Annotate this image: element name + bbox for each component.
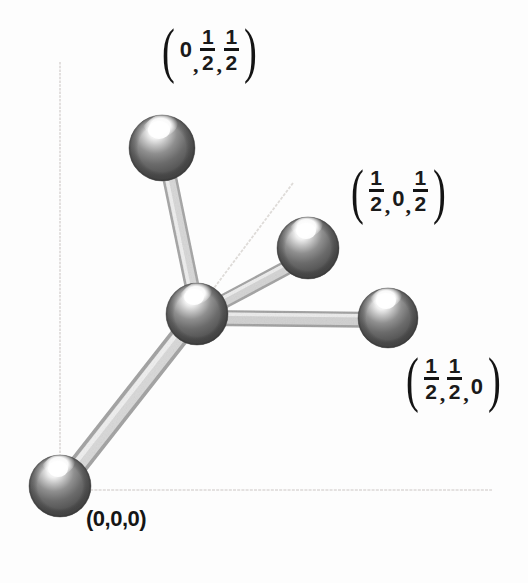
coordinate-label-0-half-half: ( 0 , 1 2 , 1 2 ) <box>158 26 261 74</box>
fraction-one-half: 1 2 <box>368 167 385 215</box>
separator-comma: , <box>440 383 447 405</box>
separator-comma: , <box>216 54 223 76</box>
open-paren: ( <box>162 28 175 73</box>
atom-face-0-half-half <box>129 113 195 181</box>
atom-face-half-0-half <box>277 214 339 279</box>
term-zero: 0 <box>391 188 405 210</box>
atom-face-half-half-0 <box>358 286 418 348</box>
separator-comma: , <box>193 54 200 76</box>
separator-comma: , <box>405 195 412 217</box>
open-paren: ( <box>406 357 419 402</box>
coordinate-label-origin: (0,0,0) <box>86 506 146 532</box>
fraction-one-half: 1 2 <box>423 355 440 403</box>
fraction-one-half: 1 2 <box>412 167 429 215</box>
open-paren: ( <box>351 169 364 214</box>
bond-center-to-origin <box>58 313 197 486</box>
lattice-figure: ( 0 , 1 2 , 1 2 ) ( <box>0 0 528 583</box>
term-zero: 0 <box>470 376 484 398</box>
fraction-one-half: 1 2 <box>199 26 216 74</box>
close-paren: ) <box>433 169 446 214</box>
close-paren: ) <box>488 357 501 402</box>
fraction-one-half: 1 2 <box>223 26 240 74</box>
coordinate-label-half-0-half: ( 1 2 , 0 , 1 2 ) <box>347 167 450 215</box>
atom-center <box>166 281 228 345</box>
coordinate-label-half-half-0: ( 1 2 , 1 2 , 0 ) <box>402 355 505 403</box>
close-paren: ) <box>244 28 257 73</box>
lattice-illustration <box>0 0 528 583</box>
term-zero: 0 <box>179 39 193 61</box>
fraction-one-half: 1 2 <box>446 355 463 403</box>
